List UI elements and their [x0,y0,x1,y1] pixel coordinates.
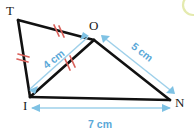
figure-canvas: T O I N 4 cm 5 cm 7 cm [0,0,194,137]
partial-circle-watermark [183,0,194,15]
side-IN [30,97,170,100]
arrow-head [162,104,171,112]
side-TI [18,20,30,97]
tick-mark [17,59,28,62]
geometry-figure: T O I N 4 cm 5 cm 7 cm [0,0,194,137]
dimension-arrow-IO [29,32,89,94]
side-IO [30,40,94,97]
vertex-label-T: T [6,3,14,18]
vertex-label-I: I [23,98,27,113]
dimension-arrow-IN [31,104,171,112]
vertex-label-O: O [89,18,98,33]
arrow-head [31,104,40,112]
dimension-label-IN: 7 cm [88,118,112,130]
vertex-label-N: N [175,95,185,110]
